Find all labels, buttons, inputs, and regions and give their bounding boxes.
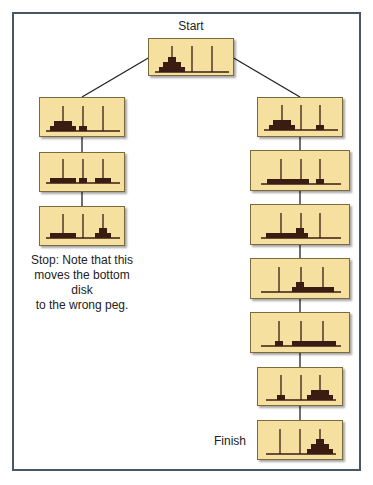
state-finish bbox=[257, 420, 343, 460]
stop-note: Stop: Note that this moves the bottom di… bbox=[22, 253, 142, 313]
state-left-1 bbox=[39, 97, 125, 137]
tower-diagram bbox=[251, 313, 351, 354]
state-left-2 bbox=[39, 152, 125, 192]
tower-diagram bbox=[251, 151, 351, 192]
state-right-6 bbox=[257, 367, 343, 406]
tower-diagram bbox=[40, 98, 126, 138]
start-label: Start bbox=[166, 19, 216, 34]
tower-diagram bbox=[258, 98, 344, 138]
state-start bbox=[148, 38, 234, 76]
state-right-5 bbox=[250, 312, 350, 353]
state-right-3 bbox=[250, 204, 350, 245]
tower-diagram bbox=[40, 207, 126, 247]
state-right-2 bbox=[250, 150, 350, 191]
tower-diagram bbox=[258, 368, 344, 407]
tower-diagram bbox=[258, 421, 344, 461]
state-right-4 bbox=[250, 258, 350, 299]
state-left-3 bbox=[39, 206, 125, 246]
state-right-1 bbox=[257, 97, 343, 137]
finish-label: Finish bbox=[214, 434, 254, 449]
tower-diagram bbox=[251, 259, 351, 300]
tower-diagram bbox=[40, 153, 126, 193]
tower-diagram bbox=[251, 205, 351, 246]
tower-diagram bbox=[149, 39, 235, 77]
